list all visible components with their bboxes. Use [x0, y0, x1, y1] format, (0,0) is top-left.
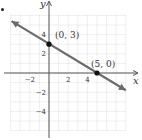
data-point	[46, 42, 51, 47]
y-tick-label: −4	[36, 108, 47, 116]
point-label: (0, 3)	[55, 30, 79, 40]
y-axis-label: y	[39, 0, 46, 9]
labeled-points: (0, 3)(5, 0)	[46, 30, 115, 75]
y-tick-label: −2	[36, 89, 46, 97]
point-label: (5, 0)	[91, 59, 115, 69]
y-tick-label: 2	[42, 50, 46, 58]
axes: xy	[4, 0, 139, 138]
x-tick-label: 2	[66, 76, 70, 84]
x-tick-label: −2	[25, 76, 35, 84]
y-tick-label: 4	[42, 31, 47, 39]
x-tick-label: 4	[85, 76, 90, 84]
coordinate-plane: xy −22442−2−4 (0, 3)(5, 0)	[0, 0, 142, 140]
data-point	[94, 70, 99, 75]
x-axis-label: x	[133, 75, 139, 86]
